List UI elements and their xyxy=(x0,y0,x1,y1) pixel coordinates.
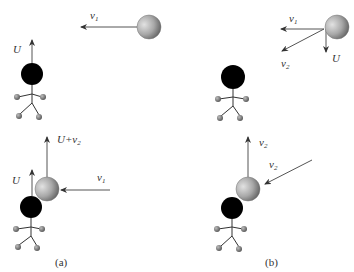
hand-icon xyxy=(13,226,19,232)
person-head-icon xyxy=(221,197,243,219)
person-figure xyxy=(215,65,249,121)
person-head-icon xyxy=(221,65,245,89)
label-v1: v1 xyxy=(90,9,98,23)
person-figure xyxy=(214,197,247,252)
hand-icon xyxy=(14,94,20,100)
panel-b-top-scene: v1 v2 U xyxy=(215,12,349,121)
label-v1: v1 xyxy=(97,171,105,185)
label-v2-out: v2 xyxy=(259,136,268,150)
foot-icon xyxy=(16,113,22,119)
hand-icon xyxy=(215,96,221,102)
label-v2: v2 xyxy=(281,57,290,71)
hand-icon xyxy=(39,226,45,232)
hand-icon xyxy=(241,226,247,232)
panel-a-bottom-scene: U+v2 U v1 xyxy=(12,133,110,251)
hand-icon xyxy=(243,96,249,102)
caption-b: (b) xyxy=(265,256,278,269)
hand-icon xyxy=(40,94,46,100)
panel-b: v1 v2 U v2 v2 xyxy=(214,12,349,269)
person-figure xyxy=(13,196,45,251)
label-v2-in: v2 xyxy=(269,158,278,172)
ball-icon xyxy=(236,177,260,201)
person-figure: U xyxy=(13,40,46,120)
ball-icon xyxy=(35,177,59,201)
caption-a: (a) xyxy=(55,256,68,269)
foot-icon xyxy=(217,115,223,121)
foot-icon xyxy=(36,114,42,120)
foot-icon xyxy=(34,245,40,251)
person-head-icon xyxy=(20,196,42,218)
ball-icon xyxy=(137,15,161,39)
label-v1: v1 xyxy=(289,12,297,26)
label-U: U xyxy=(12,174,21,186)
foot-icon xyxy=(15,244,21,250)
label-U: U xyxy=(332,52,341,64)
ball-icon xyxy=(325,15,349,39)
velocity-arrow-v2 xyxy=(282,29,324,51)
hand-icon xyxy=(214,226,220,232)
foot-icon xyxy=(216,245,222,251)
panel-a: v1 U U+v2 U v1 xyxy=(12,9,161,269)
panel-b-bottom-scene: v2 v2 xyxy=(214,136,312,252)
foot-icon xyxy=(236,246,242,252)
person-head-icon xyxy=(21,63,43,85)
label-U-plus-v2: U+v2 xyxy=(57,133,81,147)
collision-diagram: v1 U U+v2 U v1 xyxy=(0,0,354,272)
foot-icon xyxy=(237,115,243,121)
label-U: U xyxy=(13,43,22,55)
panel-a-top-scene: v1 U xyxy=(13,9,161,120)
